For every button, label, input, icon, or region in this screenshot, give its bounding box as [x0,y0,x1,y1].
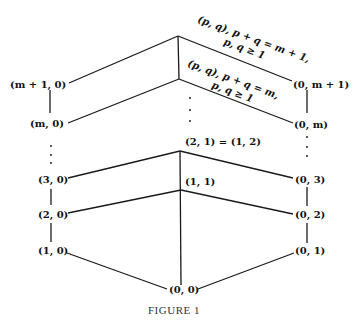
node-label-3-0: (3, 0) [38,174,68,186]
node-label-0-m: (0, m) [294,119,328,131]
node-label-1-0: (1, 0) [38,245,68,257]
lattice-figure: (m + 1, 0) (m, 0) (3, 0) (2, 0) (1, 0) (… [0,0,354,325]
ellipsis-dots [50,97,308,164]
ellipsis-center [189,97,191,99]
node-label-0-3: (0, 3) [295,174,325,186]
ellipsis-left [50,162,52,164]
node-label-0-2: (0, 2) [295,209,325,221]
ellipsis-left [50,145,52,147]
node-label-0-1: (0, 1) [295,245,325,257]
edge-m1-apex [69,36,178,83]
edge-11-02 [181,190,293,214]
edge-21-03 [180,151,293,178]
node-label-2-1: (2, 1) = (1, 2) [185,136,261,148]
edge-10-00 [67,253,167,289]
ellipsis-left [50,154,52,156]
edge-00-01 [198,253,294,289]
node-label-m1-0: (m + 1, 0) [10,79,66,91]
lattice-diagram: (m + 1, 0) (m, 0) (3, 0) (2, 0) (1, 0) (… [0,0,354,325]
node-label-0-m1: (0, m + 1) [293,79,349,91]
edge-center-vertical [180,151,181,285]
ellipsis-right [306,136,308,138]
edge-apex-vertical [178,36,179,79]
edge-m-apex2 [68,79,179,123]
ellipsis-center [189,120,191,122]
node-label-2-0: (2, 0) [38,209,68,221]
node-label-0-0: (0, 0) [169,284,199,296]
figure-caption: FIGURE 1 [148,304,200,316]
node-label-1-1: (1, 1) [185,176,215,188]
ellipsis-center [189,109,191,111]
edge-20-11 [68,190,181,213]
node-label-m-0: (m, 0) [30,118,64,130]
ellipsis-right [306,155,308,157]
ellipsis-right [306,146,308,148]
edges [50,36,307,289]
annotation-top-line1: (p, q), p + q = m + 1, [196,14,311,66]
edge-30-21 [68,151,180,178]
